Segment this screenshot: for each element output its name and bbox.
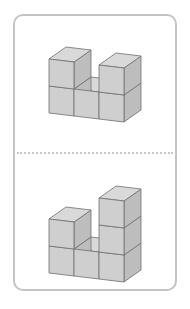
dotted-divider [17, 152, 173, 154]
bottom-figure-panel [15, 155, 175, 289]
figure-card [13, 14, 177, 291]
cube-structure-top [15, 16, 175, 153]
cube-structure-bottom [15, 155, 175, 289]
top-figure-panel [15, 16, 175, 153]
